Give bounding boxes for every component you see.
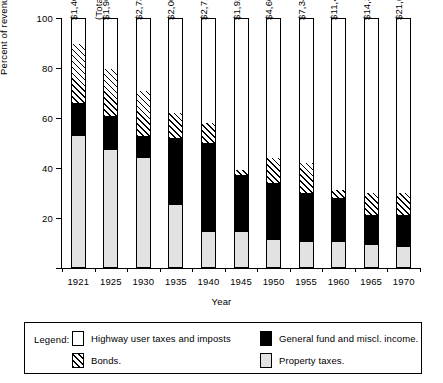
bar-1930[interactable] [136,18,151,268]
bar-total-label-1925: $1,964 [100,0,111,20]
x-tick-mark [62,268,63,272]
bar-1950[interactable] [266,18,281,268]
bar-1921[interactable] [71,18,86,268]
bar-segment-general [72,103,85,135]
y-tick-mark [56,218,62,219]
y-tick-label: 20 [42,213,53,224]
x-category-label-1960: 1960 [328,276,350,287]
bar-total-label-1960: $11,485 [328,0,339,20]
bar-segment-bonds [332,190,345,197]
bar-segment-highway [169,19,182,113]
bar-segment-general [365,215,378,245]
bar-segment-property [137,158,150,267]
x-category-label-1925: 1925 [100,276,122,287]
y-tick-mark [56,68,62,69]
x-category-label-1930: 1930 [132,276,154,287]
plot-area: 20406080100 [62,18,420,268]
bar-segment-general [235,175,248,232]
bar-segment-highway [397,19,410,193]
bar-1945[interactable] [234,18,249,268]
x-tick-mark [257,268,258,272]
bar-segment-property [169,205,182,267]
bar-segment-bonds [365,193,378,215]
bar-1965[interactable] [364,18,379,268]
x-tick-mark [290,268,291,272]
bar-segment-bonds [300,163,313,193]
x-axis-line [61,268,420,269]
x-tick-mark [387,268,388,272]
legend-swatch-hatch [72,353,84,368]
bar-segment-bonds [72,44,85,104]
bar-1960[interactable] [331,18,346,268]
x-category-label-1950: 1950 [263,276,285,287]
x-category-label-1921: 1921 [67,276,89,287]
bar-total-label-1921: $1,409 [68,0,79,20]
y-tick-mark [56,168,62,169]
bar-1935[interactable] [168,18,183,268]
bar-total-label-1965: $14,371 [361,0,372,20]
bar-1955[interactable] [299,18,314,268]
x-axis-title: Year [0,296,443,307]
bar-total-label-1945: $1,929 [231,0,242,20]
bar-segment-bonds [235,170,248,175]
legend-swatch-white [72,331,84,346]
bar-segment-highway [365,19,378,193]
y-tick-label: 80 [42,63,53,74]
x-tick-mark [355,268,356,272]
bar-segment-property [72,136,85,267]
bar-total-label-1950: $4,606 [263,0,274,20]
legend-swatch-black [260,331,272,346]
bar-total-label-1935: $2,063 [165,0,176,20]
bar-segment-property [365,245,378,267]
y-tick-label: 60 [42,113,53,124]
bar-1925[interactable] [103,18,118,268]
x-tick-mark [127,268,128,272]
bar-segment-general [397,215,410,247]
x-tick-mark [160,268,161,272]
bar-1970[interactable] [396,18,411,268]
legend-title: Legend: [34,334,69,345]
legend: Legend: Highway user taxes and impostsGe… [24,322,422,374]
bar-segment-general [332,198,345,243]
legend-item-white[interactable]: Highway user taxes and imposts [72,331,231,346]
y-tick-label: 40 [42,163,53,174]
legend-item-hatch[interactable]: Bonds. [72,353,121,368]
bar-segment-general [267,183,280,240]
legend-swatch-gray [260,353,272,368]
y-tick-label: 100 [37,13,53,24]
y-tick-mark [56,118,62,119]
bar-segment-property [202,232,215,267]
bar-segment-property [397,247,410,267]
bar-segment-property [332,242,345,267]
bar-segment-bonds [202,123,215,143]
x-category-label-1970: 1970 [393,276,415,287]
bar-total-label-1970: $21,652 [393,0,404,20]
bar-segment-highway [202,19,215,123]
bar-segment-general [137,136,150,158]
bar-total-label-1955: $7,345 [296,0,307,20]
x-tick-mark [225,268,226,272]
legend-item-label: Bonds. [91,355,121,366]
bar-segment-bonds [104,69,117,116]
bar-segment-property [235,232,248,267]
bar-segment-bonds [267,158,280,183]
legend-item-black[interactable]: General fund and miscl. income. [260,331,418,346]
bar-segment-highway [300,19,313,163]
bar-segment-highway [267,19,280,158]
legend-item-gray[interactable]: Property taxes. [260,353,344,368]
x-tick-mark [420,268,421,272]
bar-1940[interactable] [201,18,216,268]
bar-total-label-1930: $2,735 [133,0,144,20]
bar-segment-property [267,240,280,267]
x-category-label-1965: 1965 [360,276,382,287]
bar-segment-property [300,242,313,267]
bar-segment-highway [235,19,248,170]
bar-segment-property [104,150,117,267]
bar-segment-highway [137,19,150,91]
x-tick-mark [95,268,96,272]
y-tick-mark [56,18,62,19]
bar-segment-bonds [137,91,150,136]
legend-item-label: Property taxes. [279,355,344,366]
bar-segment-highway [104,19,117,69]
legend-item-label: General fund and miscl. income. [279,333,418,344]
